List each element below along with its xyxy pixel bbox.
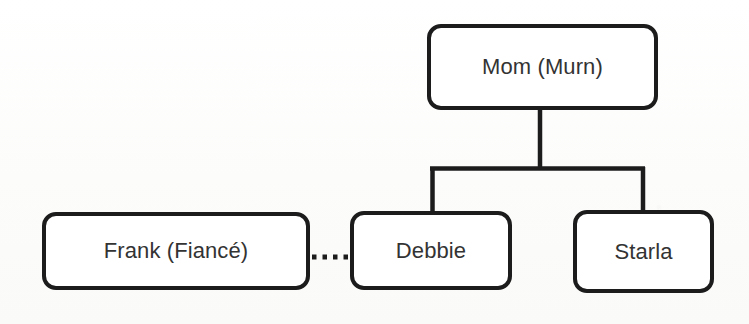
node-starla[interactable]: Starla [573,210,714,293]
node-starla-label: Starla [614,241,672,263]
node-debbie[interactable]: Debbie [350,211,512,290]
node-debbie-label: Debbie [396,240,466,262]
family-tree-diagram: Mom (Murn) Frank (Fiancé) Debbie Starla [0,0,749,324]
node-mom[interactable]: Mom (Murn) [427,24,658,110]
node-frank-label: Frank (Fiancé) [104,240,248,262]
node-frank[interactable]: Frank (Fiancé) [42,212,310,290]
node-mom-label: Mom (Murn) [482,56,603,78]
